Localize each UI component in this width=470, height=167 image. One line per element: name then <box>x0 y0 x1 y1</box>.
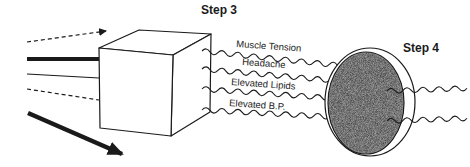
wave-label-muscle-tension: Muscle Tension <box>236 38 302 54</box>
dashed-input-line <box>27 89 99 100</box>
stress-response-diagram: Step 3 Step 4 Muscle Tension Headache El… <box>0 0 470 167</box>
step3-label: Step 3 <box>201 3 237 17</box>
sphere-target <box>325 48 415 156</box>
cube-box <box>99 30 211 136</box>
dashed-arrow-top <box>27 31 106 42</box>
thin-input-line <box>27 74 99 78</box>
wave-label-headache: Headache <box>242 56 286 70</box>
step4-label: Step 4 <box>403 41 439 55</box>
cube-front-face <box>99 48 173 136</box>
wave-label-elevated-lipids: Elevated Lipids <box>231 76 296 91</box>
sphere-grain <box>329 53 403 153</box>
